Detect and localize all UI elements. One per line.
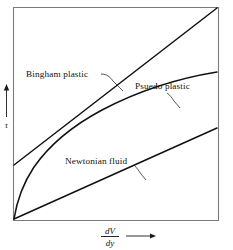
- rheology-figure: τ dV dy Bingham plastic Psuedo plastic N…: [0, 0, 233, 250]
- x-axis-label-denominator: dy: [106, 238, 115, 248]
- leader-line-newtonian: [134, 165, 146, 180]
- y-axis-label-tau: τ: [5, 121, 9, 130]
- label-newtonian-fluid: Newtonian fluid: [65, 156, 127, 166]
- y-axis-arrow-head: [4, 84, 9, 91]
- label-bingham-plastic: Bingham plastic: [26, 69, 88, 79]
- plot-frame: [14, 8, 219, 221]
- leader-line-psuedo: [167, 93, 180, 108]
- flow-curve-plot: τ dV dy Bingham plastic Psuedo plastic N…: [0, 0, 233, 250]
- curve-psuedo-plastic: [14, 72, 217, 219]
- label-psuedo-plastic: Psuedo plastic: [135, 81, 190, 91]
- x-axis-label-numerator: dV: [105, 226, 117, 236]
- x-axis-arrow-head: [150, 233, 156, 238]
